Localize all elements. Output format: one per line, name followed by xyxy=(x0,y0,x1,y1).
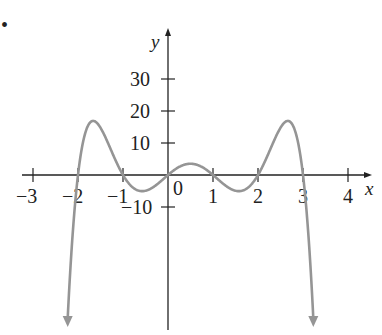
x-axis-label: x xyxy=(364,178,374,199)
y-axis-label: y xyxy=(149,31,160,52)
x-tick-label: −2 xyxy=(62,185,83,207)
y-tick-labels: 30 20 10 −10 xyxy=(121,68,152,218)
x-tick-label: 2 xyxy=(253,185,263,207)
x-tick-label: 1 xyxy=(208,185,218,207)
x-tick-label: 4 xyxy=(343,185,353,207)
y-tick-label: 10 xyxy=(130,132,150,154)
polynomial-curve xyxy=(68,121,314,318)
bullet-marker: • xyxy=(1,14,8,36)
curve-arrow-left-icon xyxy=(63,316,73,327)
x-tick-label: −3 xyxy=(16,185,37,207)
y-tick-label: 30 xyxy=(130,68,150,90)
y-tick-label: −10 xyxy=(121,196,152,218)
curve-arrow-right-icon xyxy=(308,316,318,327)
polynomial-graph: • −3 −2 −1 0 1 2 3 4 30 20 10 −10 y x xyxy=(0,0,382,335)
y-tick-label: 20 xyxy=(130,100,150,122)
x-tick-label: 0 xyxy=(173,177,183,199)
